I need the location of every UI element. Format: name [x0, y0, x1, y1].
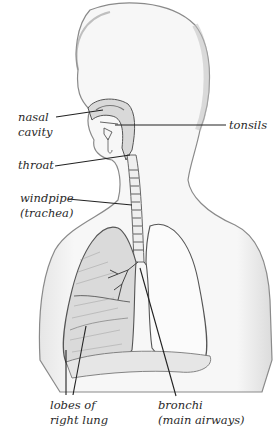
respiratory-diagram: nasal cavity tonsils throat windpipe (tr… [0, 0, 279, 441]
label-lobes-right-lung: lobes of right lung [50, 398, 108, 428]
label-windpipe: windpipe (trachea) [20, 191, 74, 221]
label-line: lobes of [50, 398, 108, 413]
label-bronchi: bronchi (main airways) [158, 398, 245, 428]
label-line: nasal [18, 110, 53, 125]
label-line: (trachea) [20, 206, 74, 221]
label-throat: throat [18, 158, 54, 173]
label-line: cavity [18, 125, 53, 140]
label-tonsils: tonsils [229, 118, 267, 133]
label-line: right lung [50, 413, 108, 428]
label-nasal-cavity: nasal cavity [18, 110, 53, 140]
label-line: (main airways) [158, 413, 245, 428]
label-line: bronchi [158, 398, 245, 413]
label-line: windpipe [20, 191, 74, 206]
